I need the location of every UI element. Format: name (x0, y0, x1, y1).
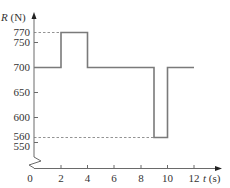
x-tick-2: 2 (58, 172, 64, 184)
x-tick-4: 4 (85, 172, 91, 184)
y-axis-arrow-icon (32, 12, 37, 19)
chart-svg: R (N) 770 750 700 650 600 560 550 0 2 4 … (0, 0, 230, 188)
y-tick-600: 600 (14, 111, 31, 123)
y-axis (29, 12, 41, 168)
x-tick-10: 10 (162, 172, 174, 184)
axis-break-icon (29, 157, 41, 168)
x-axis-label: t (s) (203, 172, 221, 185)
origin-label: 0 (27, 172, 33, 184)
x-tick-8: 8 (138, 172, 144, 184)
x-axis-arrow-icon (215, 166, 222, 171)
y-tick-700: 700 (14, 61, 31, 73)
y-tick-550: 550 (14, 140, 31, 152)
y-axis-label: R (N) (0, 11, 26, 24)
y-tick-750: 750 (14, 36, 31, 48)
x-axis (34, 165, 222, 171)
force-time-chart: R (N) 770 750 700 650 600 560 550 0 2 4 … (0, 0, 230, 188)
x-tick-6: 6 (111, 172, 117, 184)
y-tick-650: 650 (14, 86, 31, 98)
x-tick-12: 12 (189, 172, 200, 184)
force-step-line (34, 33, 194, 138)
